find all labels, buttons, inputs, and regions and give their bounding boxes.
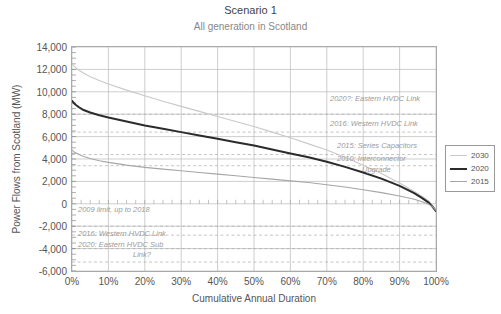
annotation-western-hvdc-link-2016: 2016: Western HVDC Link: [330, 120, 418, 129]
x-axis-tick-label: 0%: [65, 276, 79, 287]
chart-subtitle: All generation in Scotland: [0, 21, 501, 32]
annotation-western-hvdc-link-2016-lower: 2016: Western HVDC Link: [78, 230, 166, 239]
x-axis-tick-label: 60%: [280, 276, 300, 287]
x-axis-tick-label: 20%: [135, 276, 155, 287]
legend-label: 2020: [471, 164, 489, 173]
y-axis-label: Power Flows from Scotland (MW): [8, 46, 24, 272]
y-axis-tick-label: -6,000: [39, 266, 67, 277]
annotation-eastern-hvdc-link-2020: 2020?: Eastern HVDC Link: [330, 95, 420, 104]
x-axis-tick-label: 40%: [208, 276, 228, 287]
chart-container: Scenario 1 All generation in Scotland Po…: [0, 0, 501, 314]
annotation-limit-2009-up-to-2018: 2009 limit, up to 2018: [78, 206, 150, 215]
y-axis-tick-label: 12,000: [36, 64, 67, 75]
x-axis-tick-label: 50%: [244, 276, 264, 287]
x-axis-tick-label: 80%: [353, 276, 373, 287]
y-axis-tick-label: 4,000: [42, 154, 67, 165]
annotation-eastern-hvdc-sub-link-2020-line1: 2020: Eastern HVDC Sub: [78, 241, 163, 250]
x-axis-tick-label: 30%: [171, 276, 191, 287]
x-axis-tick-label: 70%: [317, 276, 337, 287]
legend-label: 2030: [471, 151, 489, 160]
chart-title: Scenario 1: [0, 4, 501, 16]
annotation-interconnector-upgrade-2010-line2: Upgrade: [362, 166, 391, 175]
legend-swatch-icon: [450, 155, 467, 156]
y-axis-tick-label: 0: [61, 198, 67, 209]
y-axis-tick-label: 6,000: [42, 131, 67, 142]
chart-legend: 203020202015: [445, 145, 495, 192]
x-axis-label: Cumulative Annual Duration: [71, 293, 437, 304]
legend-item-2015[interactable]: 2015: [448, 175, 492, 188]
x-axis-tick-label: 90%: [390, 276, 410, 287]
y-axis-tick-label: 2,000: [42, 176, 67, 187]
legend-label: 2015: [471, 177, 489, 186]
legend-swatch-icon: [450, 181, 467, 182]
legend-swatch-icon: [450, 168, 467, 170]
y-axis-tick-label: 10,000: [36, 86, 67, 97]
annotation-interconnector-upgrade-2010-line1: 2010: Interconnector: [337, 155, 406, 164]
x-axis-tick-label: 10%: [98, 276, 118, 287]
annotation-eastern-hvdc-sub-link-2020-line2: Link?: [133, 251, 151, 260]
y-axis-tick-label: -4,000: [39, 243, 67, 254]
x-axis-tick-label: 100%: [423, 276, 449, 287]
y-axis-tick-label: -2,000: [39, 221, 67, 232]
legend-item-2030[interactable]: 2030: [448, 149, 492, 162]
y-axis-label-text: Power Flows from Scotland (MW): [11, 85, 22, 234]
legend-item-2020[interactable]: 2020: [448, 162, 492, 175]
annotation-series-capacitors-2015: 2015: Series Capacitors: [337, 142, 417, 151]
y-axis-tick-label: 8,000: [42, 109, 67, 120]
y-axis-tick-label: 14,000: [36, 42, 67, 53]
